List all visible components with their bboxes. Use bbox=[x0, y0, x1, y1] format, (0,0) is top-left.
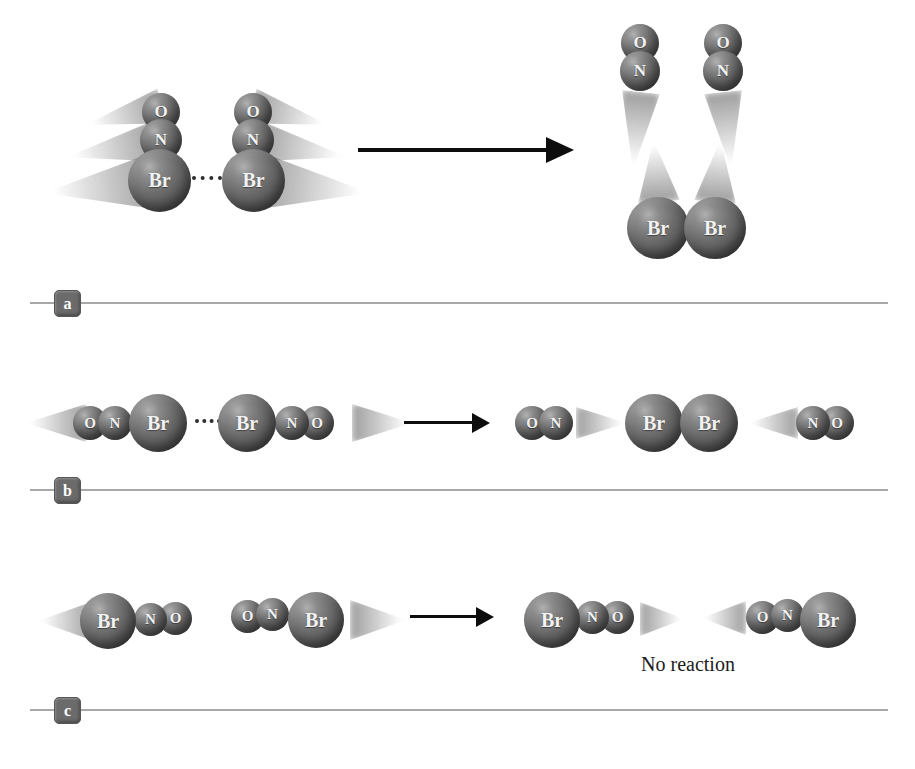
no-reaction-label: No reaction bbox=[600, 653, 776, 676]
atom-n: N bbox=[98, 406, 132, 440]
panel-label-a: a bbox=[54, 290, 81, 317]
atom-br: Br bbox=[625, 394, 683, 452]
motion-trail bbox=[350, 600, 406, 640]
atom-br: Br bbox=[627, 197, 689, 259]
reaction-arrow bbox=[410, 606, 494, 628]
panel-separator-line bbox=[30, 489, 888, 491]
atom-br: Br bbox=[128, 149, 191, 212]
atom-br: Br bbox=[680, 394, 738, 452]
atom-br: Br bbox=[218, 394, 276, 452]
figure-canvas: O N Br O N Br O N O N bbox=[0, 0, 915, 769]
dotted-collision-bond bbox=[192, 176, 222, 180]
motion-trail bbox=[576, 407, 626, 439]
atom-br: Br bbox=[288, 592, 344, 648]
panel-label-b: b bbox=[54, 477, 81, 504]
motion-trail bbox=[694, 138, 741, 203]
atom-br: Br bbox=[524, 592, 580, 648]
atom-br: Br bbox=[800, 592, 856, 648]
panel-separator-line bbox=[30, 302, 888, 304]
atom-n: N bbox=[134, 603, 167, 636]
motion-trail bbox=[640, 602, 684, 636]
atom-n: N bbox=[275, 406, 309, 440]
atom-n: N bbox=[703, 51, 743, 91]
atom-br: Br bbox=[129, 394, 187, 452]
atom-n: N bbox=[771, 599, 804, 632]
motion-trail bbox=[702, 601, 746, 635]
motion-trail bbox=[748, 407, 798, 439]
atom-n: N bbox=[620, 51, 660, 91]
atom-br: Br bbox=[222, 149, 285, 212]
atom-br: Br bbox=[684, 197, 746, 259]
atom-n: N bbox=[576, 601, 609, 634]
motion-trail bbox=[704, 90, 750, 172]
reaction-arrow bbox=[404, 412, 490, 434]
reaction-arrow bbox=[358, 137, 574, 163]
atom-br: Br bbox=[80, 593, 136, 649]
atom-n: N bbox=[539, 406, 573, 440]
motion-trail bbox=[352, 404, 412, 442]
panel-label-c: c bbox=[54, 697, 81, 724]
atom-n: N bbox=[796, 406, 830, 440]
atom-n: N bbox=[256, 598, 289, 631]
panel-separator-line bbox=[30, 709, 888, 711]
